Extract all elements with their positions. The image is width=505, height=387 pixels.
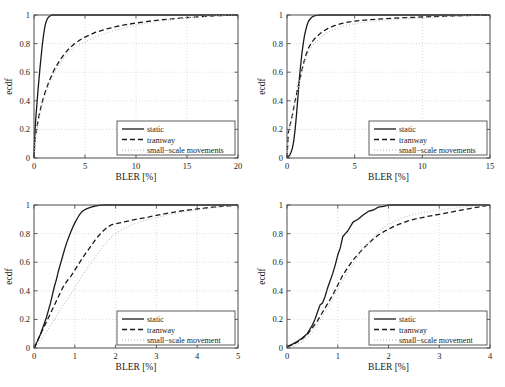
legend-label: static	[399, 315, 416, 324]
y-axis-label: ecdf	[257, 77, 267, 94]
y-tick-label: 0	[279, 153, 283, 163]
figure-ecdf-bler-panels: 0510152000.20.40.60.81BLER [%]ecdfstatic…	[0, 0, 505, 387]
y-tick-label: 1	[279, 10, 283, 20]
y-tick-label: 0.6	[19, 67, 30, 77]
legend-label: static	[147, 125, 164, 134]
x-tick-label: 1	[336, 351, 340, 361]
x-tick-label: 1	[73, 351, 77, 361]
panel-bottom-right-plot: 0123400.20.40.60.81BLER [%]ecdfstatictra…	[252, 193, 505, 387]
x-tick-label: 0	[285, 161, 289, 171]
y-tick-label: 0.2	[272, 124, 283, 134]
y-tick-label: 1	[26, 200, 30, 210]
x-axis-label: BLER [%]	[368, 172, 409, 182]
legend: statictramwaysmall−scale movements	[369, 121, 487, 155]
legend-label: tramway	[147, 136, 175, 145]
y-axis-label: ecdf	[257, 267, 267, 284]
y-tick-label: 0.4	[19, 286, 30, 296]
x-axis-label: BLER [%]	[368, 362, 409, 372]
y-tick-label: 1	[26, 10, 30, 20]
y-tick-label: 0.6	[272, 257, 283, 267]
y-tick-label: 0.4	[19, 96, 30, 106]
y-tick-label: 0.6	[19, 257, 30, 267]
legend-label: small−scale movements	[399, 146, 476, 155]
x-tick-label: 10	[418, 161, 427, 171]
x-tick-label: 5	[83, 161, 87, 171]
panel-top-left-plot: 0510152000.20.40.60.81BLER [%]ecdfstatic…	[0, 0, 253, 194]
panel-top-right: 05101500.20.40.60.81BLER [%]ecdfstatictr…	[252, 0, 505, 194]
y-tick-label: 0.6	[272, 67, 283, 77]
panel-top-right-plot: 05101500.20.40.60.81BLER [%]ecdfstatictr…	[252, 0, 505, 194]
legend-label: tramway	[399, 326, 427, 335]
legend-label: static	[147, 315, 164, 324]
x-tick-label: 10	[132, 161, 141, 171]
y-tick-label: 0	[26, 153, 30, 163]
panel-bottom-left: 01234500.20.40.60.81BLER [%]ecdfstatictr…	[0, 193, 253, 387]
x-tick-label: 0	[32, 351, 36, 361]
x-tick-label: 15	[183, 161, 192, 171]
panel-bottom-right: 0123400.20.40.60.81BLER [%]ecdfstatictra…	[252, 193, 505, 387]
y-tick-label: 0.4	[272, 96, 283, 106]
legend: statictramwaysmall−scale movement	[369, 311, 487, 345]
y-axis-label: ecdf	[4, 267, 14, 284]
legend-label: static	[399, 125, 416, 134]
y-tick-label: 0	[26, 343, 30, 353]
x-tick-label: 0	[285, 351, 289, 361]
legend-label: small−scale movement	[399, 336, 473, 345]
y-axis-label: ecdf	[4, 77, 14, 94]
panel-bottom-left-plot: 01234500.20.40.60.81BLER [%]ecdfstatictr…	[0, 193, 253, 387]
panel-top-left: 0510152000.20.40.60.81BLER [%]ecdfstatic…	[0, 0, 253, 194]
legend-label: small−scale movement	[147, 336, 221, 345]
x-axis-label: BLER [%]	[116, 172, 157, 182]
x-tick-label: 0	[32, 161, 36, 171]
x-tick-label: 3	[437, 351, 441, 361]
y-tick-label: 1	[279, 200, 283, 210]
legend-label: tramway	[147, 326, 175, 335]
y-tick-label: 0.2	[19, 124, 30, 134]
legend-label: tramway	[399, 136, 427, 145]
y-tick-label: 0.8	[19, 39, 30, 49]
y-tick-label: 0.8	[19, 229, 30, 239]
y-tick-label: 0.8	[272, 229, 283, 239]
x-tick-label: 3	[154, 351, 158, 361]
y-tick-label: 0.2	[272, 314, 283, 324]
y-tick-label: 0.8	[272, 39, 283, 49]
x-tick-label: 2	[113, 351, 117, 361]
x-tick-label: 5	[236, 351, 240, 361]
y-tick-label: 0.2	[19, 314, 30, 324]
legend: statictramwaysmall−scale movement	[117, 311, 235, 345]
y-tick-label: 0.4	[272, 286, 283, 296]
x-tick-label: 2	[386, 351, 390, 361]
x-tick-label: 4	[195, 351, 200, 361]
y-tick-label: 0	[279, 343, 283, 353]
x-tick-label: 20	[234, 161, 243, 171]
legend-label: small−scale movements	[147, 146, 224, 155]
x-tick-label: 15	[486, 161, 495, 171]
x-tick-label: 5	[353, 161, 357, 171]
x-tick-label: 4	[488, 351, 493, 361]
x-axis-label: BLER [%]	[116, 362, 157, 372]
legend: statictramwaysmall−scale movements	[117, 121, 235, 155]
